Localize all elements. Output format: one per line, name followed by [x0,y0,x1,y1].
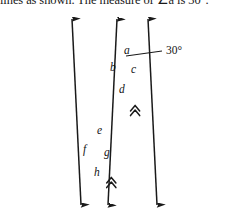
line-middle-parallel [107,19,117,205]
angle-label-g: g [104,147,110,159]
parallel-tick-marks-middle [107,177,116,187]
left-line-segment [72,19,81,205]
angle-label-a: a [124,45,130,57]
angle-leader-line [126,51,162,56]
geometry-diagram [0,0,239,224]
problem-figure-page: lines as shown. The measure of ∠a is 30°… [0,0,239,224]
parallel-tick-marks-right [131,105,140,115]
angle-label-f: f [83,144,86,156]
line-left-transversal [72,19,81,205]
angle-measure-label: 30° [166,45,182,57]
line-right-parallel [131,19,158,205]
right-line-segment [148,19,157,205]
middle-line-segment [108,19,117,205]
angle-label-h: h [94,167,100,179]
angle-label-d: d [119,84,125,96]
angle-label-e: e [97,125,102,137]
angle-label-c: c [131,64,136,76]
angle-label-b: b [110,62,116,74]
